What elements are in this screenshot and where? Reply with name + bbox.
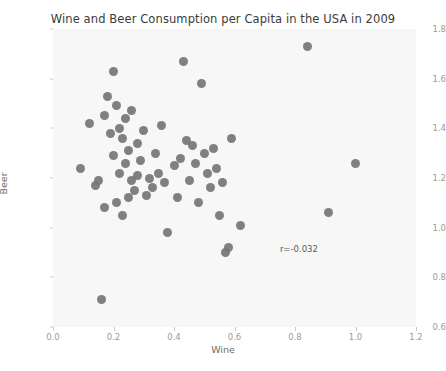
- data-point: [139, 126, 148, 135]
- data-point: [112, 101, 121, 110]
- plot-area: [53, 29, 416, 327]
- data-point: [194, 198, 203, 207]
- data-point: [124, 193, 133, 202]
- data-point: [185, 176, 194, 185]
- data-point: [97, 295, 106, 304]
- data-point: [136, 156, 145, 165]
- data-point: [197, 79, 206, 88]
- data-point: [112, 198, 121, 207]
- x-axis-label: Wine: [0, 344, 446, 355]
- data-point: [191, 159, 200, 168]
- data-point: [179, 57, 188, 66]
- data-point: [209, 144, 218, 153]
- data-point: [154, 169, 163, 178]
- y-axis-tick-label: 1.0: [400, 223, 446, 233]
- data-point: [188, 141, 197, 150]
- data-point: [170, 161, 179, 170]
- y-axis-tick-mark: [50, 128, 54, 129]
- y-axis-tick-mark: [50, 178, 54, 179]
- x-axis-tick-mark: [114, 327, 115, 331]
- y-axis-tick-label: 1.6: [400, 74, 446, 84]
- y-axis-tick-mark: [50, 227, 54, 228]
- data-point: [118, 134, 127, 143]
- data-point: [148, 183, 157, 192]
- data-point: [200, 149, 209, 158]
- data-point: [218, 178, 227, 187]
- x-axis-tick-label: 0.4: [154, 332, 194, 342]
- data-point: [151, 149, 160, 158]
- y-axis-tick-mark: [50, 78, 54, 79]
- data-point: [212, 164, 221, 173]
- x-axis-tick-mark: [235, 327, 236, 331]
- x-axis-tick-label: 1.2: [396, 332, 436, 342]
- x-axis-tick-label: 0.6: [215, 332, 255, 342]
- x-axis-tick-label: 0.8: [275, 332, 315, 342]
- data-point: [115, 169, 124, 178]
- data-point: [227, 134, 236, 143]
- data-point: [206, 183, 215, 192]
- scatter-plot-figure: Wine and Beer Consumption per Capita in …: [0, 0, 446, 371]
- data-point: [100, 111, 109, 120]
- data-point: [121, 114, 130, 123]
- x-axis-tick-label: 0.0: [33, 332, 73, 342]
- data-point: [124, 146, 133, 155]
- data-point: [203, 169, 212, 178]
- data-point: [351, 159, 360, 168]
- x-axis-tick-label: 0.2: [94, 332, 134, 342]
- data-point: [100, 203, 109, 212]
- data-point: [118, 211, 127, 220]
- data-point: [121, 159, 130, 168]
- y-axis-tick-label: 1.4: [400, 123, 446, 133]
- data-point: [163, 228, 172, 237]
- data-point: [109, 67, 118, 76]
- data-point: [130, 186, 139, 195]
- page-title: Wine and Beer Consumption per Capita in …: [0, 12, 446, 26]
- data-point: [303, 42, 312, 51]
- data-point: [224, 243, 233, 252]
- y-axis-tick-mark: [50, 29, 54, 30]
- y-axis-tick-label: 1.8: [400, 24, 446, 34]
- x-axis-tick-mark: [356, 327, 357, 331]
- data-point: [103, 92, 112, 101]
- data-point: [145, 174, 154, 183]
- data-point: [236, 221, 245, 230]
- data-point: [157, 121, 166, 130]
- y-axis-tick-mark: [50, 277, 54, 278]
- data-point: [94, 176, 103, 185]
- x-axis-tick-mark: [295, 327, 296, 331]
- correlation-annotation: r=-0.032: [280, 244, 318, 254]
- data-point: [160, 178, 169, 187]
- data-point: [76, 164, 85, 173]
- data-point: [127, 106, 136, 115]
- data-point: [215, 211, 224, 220]
- x-axis-tick-mark: [174, 327, 175, 331]
- data-point: [142, 191, 151, 200]
- data-point: [133, 171, 142, 180]
- data-point: [115, 124, 124, 133]
- y-axis-tick-label: 1.2: [400, 173, 446, 183]
- data-point: [324, 208, 333, 217]
- y-axis-tick-label: 0.8: [400, 272, 446, 282]
- x-axis-tick-mark: [416, 327, 417, 331]
- data-point: [85, 119, 94, 128]
- data-point: [133, 139, 142, 148]
- data-point: [106, 129, 115, 138]
- data-point: [176, 154, 185, 163]
- data-point: [109, 151, 118, 160]
- data-point: [173, 193, 182, 202]
- y-axis-tick-label: 0.6: [400, 322, 446, 332]
- x-axis-tick-mark: [53, 327, 54, 331]
- y-axis-label: Beer: [0, 172, 9, 194]
- x-axis-tick-label: 1.0: [336, 332, 376, 342]
